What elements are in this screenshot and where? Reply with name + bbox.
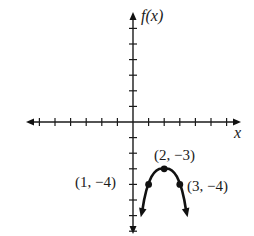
parabola-curve [139, 169, 189, 218]
curve-left-arrow-icon [139, 208, 146, 218]
x-axis-left-arrow-icon [26, 119, 34, 126]
point-label-left: (1, −4) [75, 174, 116, 191]
point-marker [161, 165, 168, 172]
y-axis [129, 12, 137, 234]
curve-right-arrow-icon [182, 208, 189, 218]
point-label-right: (3, −4) [187, 178, 228, 195]
point-label-vertex: (2, −3) [154, 147, 195, 164]
point-marker [176, 181, 183, 188]
y-axis-down-arrow-icon [130, 226, 137, 234]
y-axis-label: f(x) [141, 7, 163, 25]
point-marker [145, 181, 152, 188]
x-axis-label: x [233, 124, 241, 141]
function-graph: f(x) x (1, −4) (2, −3) (3, −4) [0, 0, 254, 236]
y-axis-up-arrow-icon [130, 12, 137, 20]
